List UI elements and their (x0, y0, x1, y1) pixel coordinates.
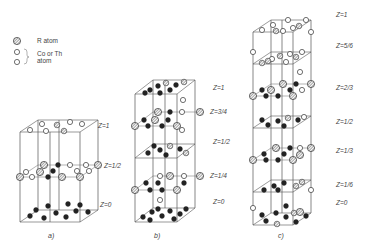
th-atom-legend-icon (14, 59, 19, 64)
level-label-c-z12: Z=1/2 (335, 118, 353, 125)
legend-brace-icon (24, 49, 29, 64)
level-label-c-z1: Z=1 (335, 11, 348, 18)
level-label-c-z16: Z=1/6 (335, 181, 353, 188)
crystal-structure-figure: R atom Co or Th atom (0, 0, 368, 249)
legend-r-atom-label: R atom (37, 37, 58, 44)
level-label-b-z14: Z=1/4 (209, 172, 227, 179)
diagram-b: Z=1 Z=3/4 Z=1/2 Z=1/4 Z=0 b) (131, 79, 230, 240)
level-label-b-z1: Z=1 (212, 84, 225, 91)
level-label-c-z13: Z=1/3 (335, 147, 353, 154)
caption-b: b) (154, 232, 160, 240)
r-atom-a-half (76, 173, 83, 180)
level-label-a-z-half: Z=1/2 (103, 162, 121, 169)
level-label-c-z0: Z=0 (335, 199, 348, 206)
r-atom-legend-icon (13, 37, 20, 44)
legend-co-th-label: Co or Th (37, 50, 63, 57)
level-label-b-z12: Z=1/2 (212, 138, 230, 145)
diagram-c: Z=1 Z=5/6 Z=2/3 Z=1/2 Z=1/3 Z=1/6 Z=0 c) (249, 11, 353, 240)
level-label-a-z0: Z=0 (99, 201, 112, 208)
diagram-a: Z=1 Z=1/2 Z=0 a) (16, 119, 121, 240)
level-label-a-z1: Z=1 (97, 122, 110, 129)
legend-atom-label: atom (37, 57, 51, 64)
level-label-c-z56: Z=5/6 (335, 42, 353, 49)
caption-a: a) (48, 232, 54, 240)
caption-c: c) (278, 232, 284, 240)
legend: R atom Co or Th atom (13, 37, 62, 65)
co-atom-legend-icon (14, 49, 19, 54)
level-label-c-z23: Z=2/3 (335, 84, 353, 91)
level-label-b-z0: Z=0 (212, 198, 225, 205)
level-label-b-z34: Z=3/4 (209, 108, 227, 115)
